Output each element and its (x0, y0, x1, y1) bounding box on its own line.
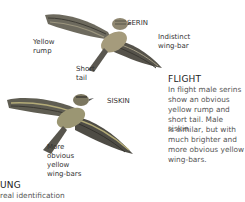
flight-heading: FLIGHT (168, 74, 201, 84)
flight-text-line: is similar, but with (168, 125, 236, 134)
flight-text-line: wing-bars. (168, 155, 207, 164)
siskin-label: SISKIN (107, 97, 130, 106)
serin-rump-callout-line2: rump (33, 47, 52, 56)
flight-text-line: much brighter and (168, 135, 237, 144)
serin-rump-callout-line1: Yellow (33, 38, 55, 47)
young-heading: UNG (0, 180, 21, 190)
serin-label: SERIN (127, 19, 148, 28)
serin-tail-callout-line1: Short (76, 65, 95, 74)
serin-tail-callout-line2: tail (76, 74, 87, 83)
young-text-line: real identification (0, 191, 65, 200)
serin-wingbar-callout-line2: wing-bar (158, 42, 189, 51)
siskin-wingbar-callout-line2: obvious (47, 152, 74, 161)
siskin-wingbar-callout-line4: wing-bars (47, 170, 81, 179)
flight-text-line: yellow rump and (168, 105, 230, 114)
flight-text-line: more obvious yellow (168, 145, 244, 154)
serin-wingbar-callout-line1: Indistinct (158, 33, 190, 42)
siskin-wingbar-callout-line1: More (47, 143, 64, 152)
flight-text-line: show an obvious (168, 95, 230, 104)
flight-text-line: In flight male serins (168, 85, 241, 94)
siskin-wingbar-callout-line3: yellow (47, 161, 69, 170)
